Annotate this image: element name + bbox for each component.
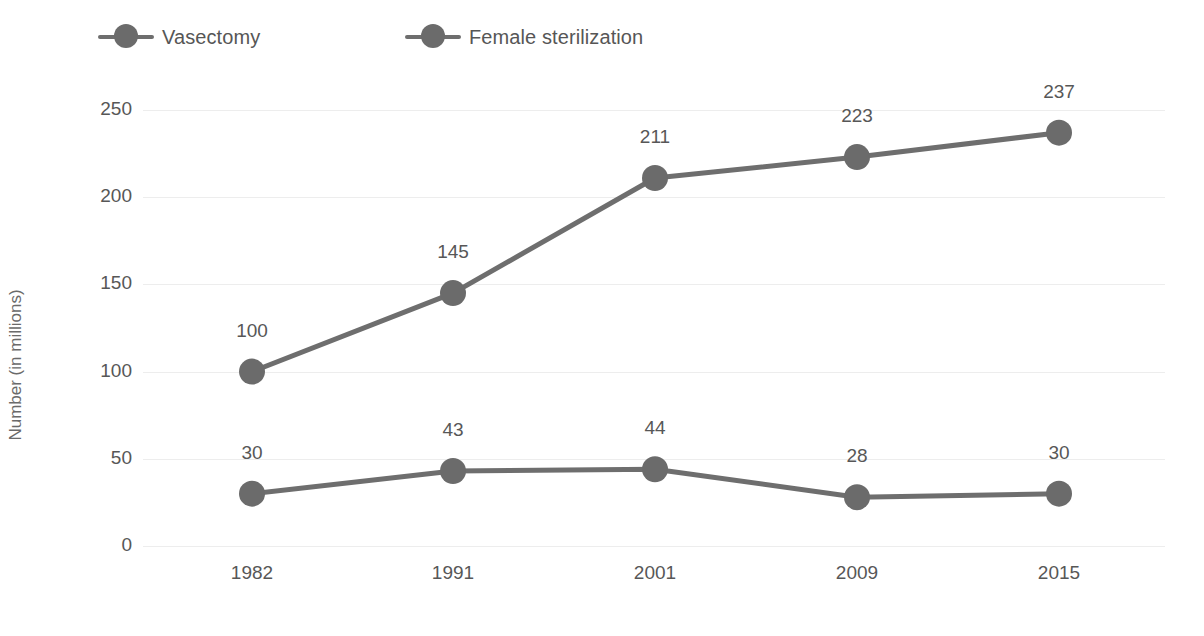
data-point-marker[interactable] <box>239 481 265 507</box>
data-point-label: 30 <box>1014 442 1104 464</box>
data-point-marker[interactable] <box>1046 120 1072 146</box>
data-point-label: 44 <box>610 417 700 439</box>
data-point-marker[interactable] <box>642 165 668 191</box>
data-point-marker[interactable] <box>1046 481 1072 507</box>
chart-page: Vasectomy Female sterilization Number (i… <box>0 0 1204 636</box>
data-point-label: 145 <box>408 241 498 263</box>
data-point-label: 237 <box>1014 81 1104 103</box>
data-point-marker[interactable] <box>239 359 265 385</box>
data-point-marker[interactable] <box>844 484 870 510</box>
data-point-marker[interactable] <box>440 458 466 484</box>
data-point-label: 100 <box>207 320 297 342</box>
data-point-label: 28 <box>812 445 902 467</box>
data-point-label: 223 <box>812 105 902 127</box>
data-point-marker[interactable] <box>440 280 466 306</box>
data-point-marker[interactable] <box>844 144 870 170</box>
data-point-marker[interactable] <box>642 456 668 482</box>
data-point-label: 211 <box>610 126 700 148</box>
data-point-label: 43 <box>408 419 498 441</box>
data-point-label: 30 <box>207 442 297 464</box>
